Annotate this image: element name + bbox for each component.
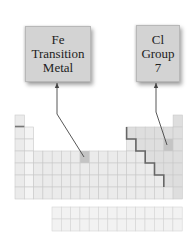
element-cell (155, 127, 164, 139)
element-cell (62, 175, 71, 187)
element-cell (173, 127, 182, 139)
element-cell (145, 151, 154, 163)
element-cell (155, 151, 164, 163)
element-cell (52, 187, 61, 199)
f-block-cell (80, 219, 89, 231)
f-block-cell (89, 219, 98, 231)
element-cell (24, 127, 33, 139)
f-block-cell (71, 207, 80, 219)
f-block-cell (117, 207, 126, 219)
element-cell (43, 151, 52, 163)
element-cell (145, 127, 154, 139)
f-block-cell (136, 219, 145, 231)
element-cell (136, 163, 145, 175)
element-cell (89, 163, 98, 175)
element-cell (15, 163, 24, 175)
element-cell (89, 175, 98, 187)
element-cell (99, 187, 108, 199)
element-cell (99, 151, 108, 163)
element-cell (155, 163, 164, 175)
element-cell (15, 175, 24, 187)
element-cell (34, 187, 43, 199)
element-cell (164, 127, 173, 139)
element-cell (173, 115, 182, 127)
element-cell (136, 175, 145, 187)
element-cell (164, 175, 173, 187)
f-block-cell (154, 219, 163, 231)
element-cell (71, 187, 80, 199)
periodic-table (0, 0, 193, 243)
element-cell (52, 175, 61, 187)
element-cell (80, 187, 89, 199)
element-cell (136, 139, 145, 151)
fe-arrow (57, 83, 84, 157)
element-cell (136, 151, 145, 163)
element-cell (43, 163, 52, 175)
element-cell (155, 139, 164, 151)
f-block-cell (61, 219, 70, 231)
element-cell (127, 139, 136, 151)
f-block-cell (126, 207, 135, 219)
element-cell (15, 115, 24, 127)
f-block-cell (52, 219, 61, 231)
f-block-cell (173, 219, 182, 231)
element-cell (127, 151, 136, 163)
element-cell (145, 187, 154, 199)
element-cell (99, 175, 108, 187)
f-block-cell (154, 207, 163, 219)
f-block-cell (173, 207, 182, 219)
f-block-cell (99, 207, 108, 219)
element-cell (164, 163, 173, 175)
element-cell (24, 163, 33, 175)
element-cell (15, 187, 24, 199)
f-block-cell (136, 207, 145, 219)
element-cell (80, 175, 89, 187)
f-block-cell (117, 219, 126, 231)
element-cell (24, 187, 33, 199)
element-cell (127, 163, 136, 175)
f-block-cell (126, 219, 135, 231)
element-cell (71, 163, 80, 175)
element-cell (173, 139, 182, 151)
f-block-cell (164, 219, 173, 231)
f-block-cell (61, 207, 70, 219)
element-cell (127, 127, 136, 139)
element-cell (117, 187, 126, 199)
element-cell (136, 187, 145, 199)
element-cell (173, 163, 182, 175)
element-cell (145, 163, 154, 175)
f-block-cell (71, 219, 80, 231)
element-cell (43, 175, 52, 187)
element-cell (15, 127, 24, 139)
element-cell (145, 139, 154, 151)
f-block-cell (145, 219, 154, 231)
element-cell (164, 187, 173, 199)
fe-arrow-head (55, 83, 59, 88)
f-block-cell (80, 207, 89, 219)
element-cell (108, 163, 117, 175)
element-cell (24, 139, 33, 151)
f-block-cell (108, 207, 117, 219)
f-block-cell (164, 207, 173, 219)
element-cell (89, 187, 98, 199)
f-block-cell (99, 219, 108, 231)
element-cell (34, 151, 43, 163)
element-cell (15, 151, 24, 163)
element-cell (117, 175, 126, 187)
element-cell (117, 163, 126, 175)
element-cell (34, 163, 43, 175)
element-cell (136, 127, 145, 139)
element-cell (127, 175, 136, 187)
element-cell (145, 175, 154, 187)
element-cell (43, 187, 52, 199)
element-cell (15, 139, 24, 151)
element-cell (108, 187, 117, 199)
element-cell (155, 187, 164, 199)
element-cell (62, 163, 71, 175)
element-cell (108, 175, 117, 187)
element-cell (164, 151, 173, 163)
element-cell (71, 151, 80, 163)
element-cell (127, 187, 136, 199)
element-cell (108, 151, 117, 163)
f-block-cell (145, 207, 154, 219)
